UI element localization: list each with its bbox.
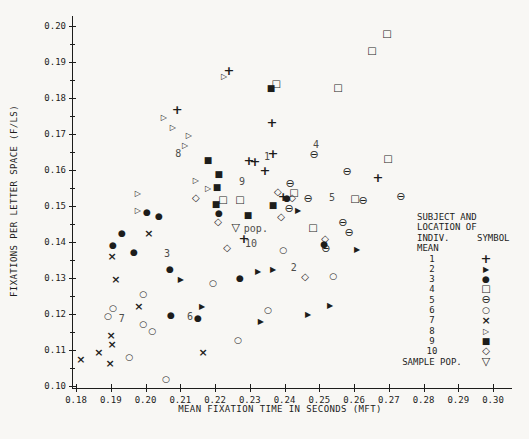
legend-row-label: 7	[400, 315, 464, 325]
x-tick-label: 0.29	[445, 396, 471, 405]
data-point-subject-9: ■	[244, 211, 253, 220]
y-tick-label: 0.12	[38, 310, 66, 319]
y-tick	[69, 314, 76, 315]
legend: SUBJECT AND LOCATION OF INDIV. MEAN SYMB…	[400, 212, 512, 367]
data-point-subject-6: ○	[148, 326, 156, 335]
y-minor-tick	[70, 116, 75, 117]
y-tick-label: 0.11	[38, 346, 66, 355]
legend-row-10: 10◇	[400, 346, 512, 356]
y-tick	[69, 134, 76, 135]
x-tick-label: 0.22	[202, 396, 228, 405]
x-tick	[215, 384, 216, 392]
y-minor-tick	[70, 260, 75, 261]
x-tick-label: 0.20	[133, 396, 159, 405]
data-point-subject-6: ○	[264, 306, 272, 315]
data-point-subject-6: ○	[209, 279, 217, 288]
data-point-subject-6: ○	[139, 320, 147, 329]
y-tick-label: 0.13	[38, 274, 66, 283]
y-tick	[69, 206, 76, 207]
data-point-subject-9: ■	[213, 182, 222, 191]
legend-row-symbol-cell: ▽	[464, 356, 508, 367]
data-point-subject-3: ●	[143, 208, 151, 217]
y-tick	[69, 350, 76, 351]
data-point-subject-10: ◇	[301, 272, 309, 282]
data-point-subject-3: ●	[194, 313, 202, 322]
data-point-subject-7: ×	[76, 354, 85, 365]
x-axis-line	[72, 388, 512, 389]
x-tick-label: 0.24	[272, 396, 298, 405]
mean-location-label-pop: pop.	[244, 224, 268, 234]
x-tick	[111, 384, 112, 392]
y-minor-tick	[70, 152, 75, 153]
data-point-subject-10: ◇	[321, 234, 329, 244]
data-point-subject-4: □	[367, 46, 376, 56]
data-point-subject-6: ○	[279, 245, 287, 254]
data-point-subject-5: ⊖	[342, 166, 351, 177]
legend-row-label: 9	[400, 336, 464, 346]
x-tick-label: 0.27	[376, 396, 402, 405]
legend-rows: 1+2▶3●4□5⊖6○7×8▷9■10◇SAMPLE POP.▽	[400, 254, 512, 367]
x-tick	[146, 384, 147, 392]
legend-row-3: 3●	[400, 274, 512, 284]
data-point-subject-9: ■	[267, 83, 276, 92]
y-tick-label: 0.16	[38, 166, 66, 175]
data-point-subject-5: ⊖	[321, 243, 330, 254]
legend-row-label: 10	[400, 346, 464, 356]
legend-row-sample-pop-: SAMPLE POP.▽	[400, 357, 512, 367]
legend-header-line1: SUBJECT AND	[400, 212, 512, 222]
data-point-subject-3: ●	[118, 229, 126, 238]
data-point-subject-2: ▶	[327, 302, 333, 310]
x-tick	[458, 384, 459, 392]
data-point-subject-6: ○	[329, 271, 337, 280]
y-minor-tick	[70, 368, 75, 369]
data-point-subject-8: ▷	[170, 124, 176, 132]
y-tick-label: 0.19	[38, 58, 66, 67]
data-point-subject-4: □	[333, 83, 342, 93]
data-point-subject-8: ▷	[186, 132, 192, 140]
data-point-subject-10: ◇	[274, 187, 282, 197]
y-tick-label: 0.20	[38, 22, 66, 31]
legend-symbol-8: ▷	[483, 327, 489, 336]
mean-location-label-6: 6	[187, 312, 193, 322]
mean-location-label-5: 5	[329, 193, 335, 203]
data-point-subject-7: ×	[94, 347, 103, 358]
x-tick	[285, 384, 286, 392]
y-minor-tick	[70, 296, 75, 297]
x-axis-title: MEAN FIXATION TIME IN SECONDS (MFT)	[178, 404, 382, 414]
data-point-subject-2: ▶	[305, 311, 311, 319]
legend-row-label: SAMPLE POP.	[400, 357, 464, 367]
legend-row-symbol-cell: ▶	[464, 264, 508, 274]
data-point-subject-7: ×	[108, 251, 117, 262]
data-point-subject-6: ○	[125, 352, 133, 361]
data-point-subject-10: ◇	[214, 217, 222, 227]
data-point-subject-8: ▷	[135, 207, 141, 215]
legend-symbol-2: ▶	[483, 265, 489, 274]
data-point-subject-5: ⊖	[309, 149, 318, 160]
x-tick-label: 0.28	[411, 396, 437, 405]
data-point-subject-1: +	[373, 170, 384, 183]
data-point-subject-3: ●	[166, 265, 174, 274]
legend-row-label: 4	[400, 284, 464, 294]
x-tick-label: 0.18	[63, 396, 89, 405]
x-tick	[493, 384, 494, 392]
legend-row-8: 8▷	[400, 326, 512, 336]
y-tick	[69, 242, 76, 243]
y-tick-label: 0.14	[38, 238, 66, 247]
data-point-subject-7: ×	[199, 347, 208, 358]
legend-row-label: 1	[400, 254, 464, 264]
legend-symbol-sample-pop-: ▽	[482, 355, 490, 368]
data-point-subject-2: ▶	[178, 276, 184, 284]
data-point-subject-1: +	[172, 103, 183, 116]
y-axis-title: FIXATIONS PER LETTER SPACE (F/LS)	[9, 105, 19, 297]
x-tick	[319, 384, 320, 392]
data-point-subject-2: ▶	[199, 303, 205, 311]
x-tick-label: 0.30	[480, 396, 506, 405]
data-point-subject-5: ⊖	[396, 190, 405, 201]
legend-row-5: 5⊖	[400, 295, 512, 305]
data-point-subject-2: ▶	[255, 268, 261, 276]
mean-location-label-8: 8	[175, 149, 181, 159]
data-point-subject-6: ○	[104, 312, 112, 321]
data-point-subject-7: ×	[108, 338, 117, 349]
mean-location-label-4: 4	[313, 140, 319, 150]
data-point-subject-8: ▷	[193, 177, 199, 185]
